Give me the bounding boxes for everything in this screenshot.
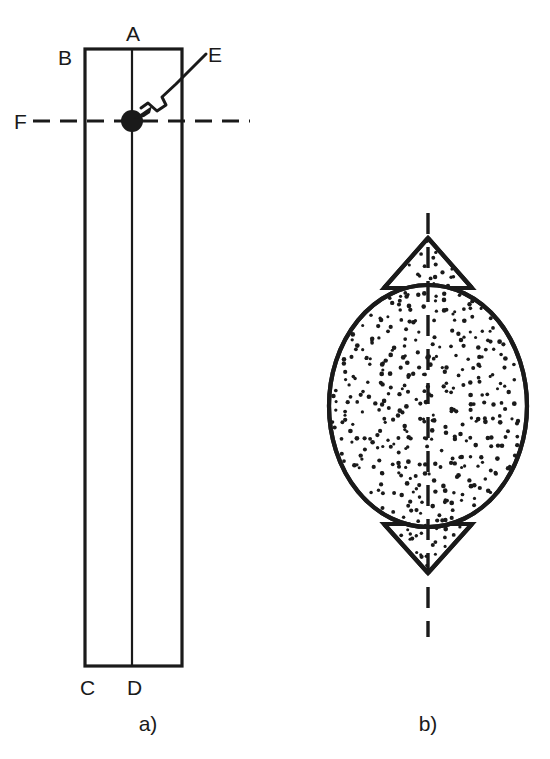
figure-root: A B C D F E a): [0, 0, 550, 759]
panel-a-callout-arrow-line: [141, 54, 206, 111]
panel-a-label-a: A: [126, 22, 140, 45]
panel-a-label-e: E: [208, 43, 222, 66]
panel-a-group: A B C D F E a): [14, 22, 250, 735]
panel-a-label-d: D: [127, 676, 142, 699]
panel-b-caption: b): [419, 712, 438, 735]
panel-a-caption: a): [139, 712, 158, 735]
panel-a-label-b: B: [58, 46, 72, 69]
panel-a-particle-dot: [121, 110, 143, 132]
panel-a-label-c: C: [80, 676, 95, 699]
panel-a-label-f: F: [14, 110, 27, 133]
panel-b-group: b): [329, 213, 527, 735]
panel-a-specimen-outline: [85, 49, 182, 666]
figure-canvas: A B C D F E a): [0, 0, 550, 759]
